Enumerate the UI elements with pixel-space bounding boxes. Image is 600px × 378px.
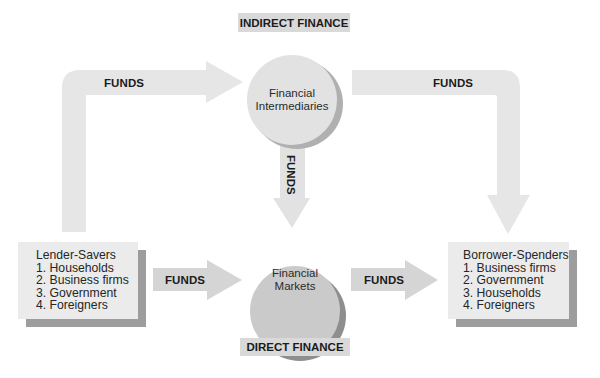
indirect-finance-label: INDIRECT FINANCE [238,13,350,32]
intermediaries-label-line2: Intermediaries [247,100,337,113]
arrow-lenders-to-intermediaries [62,61,243,232]
arrow-intermediaries-to-borrowers [352,70,530,234]
intermediaries-label: Financial Intermediaries [247,87,337,113]
funds-label-top-left: FUNDS [104,77,144,89]
intermediaries-label-line1: Financial [247,87,337,100]
borrowers-item: 4. Foreigners [463,299,569,312]
borrowers-box: Borrower-Spenders 1. Business firms 2. G… [448,242,569,319]
borrowers-item: 2. Government [463,274,569,287]
funds-label-top-right: FUNDS [433,77,473,89]
lenders-box: Lender-Savers 1. Households 2. Business … [18,242,138,319]
lenders-item: 4. Foreigners [36,299,138,312]
markets-label: Financial Markets [250,267,340,293]
markets-label-line1: Financial [250,267,340,280]
markets-label-line2: Markets [250,280,340,293]
funds-label-bottom-left: FUNDS [165,274,205,286]
funds-label-vertical: FUNDS [285,155,297,195]
borrowers-heading: Borrower-Spenders [463,249,569,262]
funds-label-bottom-right: FUNDS [364,274,404,286]
lenders-heading: Lender-Savers [36,249,138,262]
direct-finance-label: DIRECT FINANCE [240,338,350,356]
lenders-item: 2. Business firms [36,274,138,287]
